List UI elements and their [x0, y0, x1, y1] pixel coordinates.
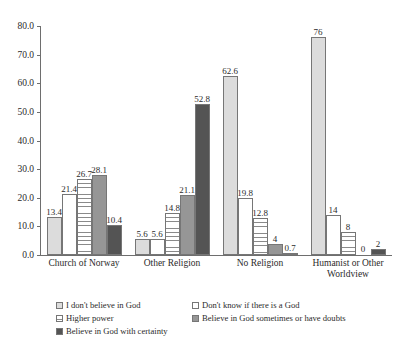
bar-slot: 26.7 [77, 26, 92, 255]
bar-slot: 14 [326, 26, 341, 255]
bar-groups: 13.421.426.728.110.45.65.614.821.152.862… [40, 26, 392, 255]
legend-row: Believe in God with certainty [56, 326, 376, 336]
legend-label: Higher power [66, 313, 114, 323]
bar[interactable]: 0.7 [283, 253, 298, 255]
y-axis-tick-label: 0.0 [0, 250, 34, 260]
bar[interactable]: 8 [341, 232, 356, 255]
bar-slot: 76 [311, 26, 326, 255]
x-axis-line [40, 255, 392, 256]
bar[interactable]: 12.8 [253, 218, 268, 255]
y-axis-tick-label: 10.0 [0, 221, 34, 231]
bar[interactable]: 13.4 [47, 217, 62, 255]
legend-label: Believe in God with certainty [66, 326, 168, 336]
bar-slot: 0.7 [283, 26, 298, 255]
legend-item[interactable]: I don't believe in God [56, 300, 192, 310]
bar-value-label: 12.8 [252, 209, 268, 218]
x-axis-category-line: Worldview [304, 269, 392, 280]
bar[interactable]: 62.6 [223, 76, 238, 255]
legend-row: Higher powerBelieve in God sometimes or … [56, 313, 376, 323]
y-axis-tick-label: 80.0 [0, 21, 34, 31]
bar[interactable]: 21.4 [62, 194, 77, 255]
bar-slot: 2 [371, 26, 386, 255]
bar-group: 7614802 [304, 26, 392, 255]
bar-value-label: 10.4 [106, 216, 122, 225]
x-axis-category-line: No Religion [216, 258, 304, 269]
y-axis-tick-label: 20.0 [0, 193, 34, 203]
x-axis-category-label: Humanist or OtherWorldview [304, 258, 392, 280]
bar-slot: 21.4 [62, 26, 77, 255]
bar-value-label: 62.6 [222, 67, 238, 76]
bar-value-label: 14 [329, 206, 338, 215]
bar-slot: 5.6 [135, 26, 150, 255]
bar-value-label: 0 [361, 245, 366, 254]
bar-slot: 62.6 [223, 26, 238, 255]
bar[interactable]: 14 [326, 215, 341, 255]
bar-value-label: 21.4 [61, 185, 77, 194]
bar[interactable]: 19.8 [238, 198, 253, 255]
bar-value-label: 21.1 [179, 186, 195, 195]
y-axis-tick-label: 40.0 [0, 136, 34, 146]
bar-slot: 8 [341, 26, 356, 255]
bar-value-label: 5.6 [136, 230, 147, 239]
bar-slot: 4 [268, 26, 283, 255]
bar-value-label: 2 [376, 240, 381, 249]
bar-group: 5.65.614.821.152.8 [128, 26, 216, 255]
y-axis-tick-label: 60.0 [0, 78, 34, 88]
legend-swatch [56, 328, 63, 335]
bar[interactable]: 14.8 [165, 213, 180, 255]
x-axis-category-line: Humanist or Other [304, 258, 392, 269]
bar-value-label: 8 [346, 223, 351, 232]
bar-slot: 10.4 [107, 26, 122, 255]
legend-item[interactable]: Believe in God sometimes or have doubts [192, 313, 346, 323]
bar-value-label: 4 [273, 235, 278, 244]
bar-value-label: 28.1 [91, 166, 107, 175]
legend-swatch [192, 302, 199, 309]
bar-slot: 52.8 [195, 26, 210, 255]
y-axis-ticks: 0.010.020.030.040.050.060.070.080.0 [0, 0, 40, 361]
x-axis-category-line: Other Religion [128, 258, 216, 269]
legend-swatch [56, 302, 63, 309]
bar[interactable]: 76 [311, 37, 326, 255]
bar-slot: 21.1 [180, 26, 195, 255]
bar-slot: 14.8 [165, 26, 180, 255]
bar-slot: 5.6 [150, 26, 165, 255]
chart-legend: I don't believe in GodDon't know if ther… [56, 300, 376, 339]
bar[interactable]: 28.1 [92, 175, 107, 255]
bar[interactable]: 21.1 [180, 195, 195, 255]
bar[interactable]: 2 [371, 249, 386, 255]
bar-value-label: 19.8 [237, 189, 253, 198]
bar[interactable]: 5.6 [135, 239, 150, 255]
bar-value-label: 14.8 [164, 204, 180, 213]
bar[interactable]: 4 [268, 244, 283, 255]
y-axis-tick-label: 50.0 [0, 107, 34, 117]
bar[interactable]: 52.8 [195, 104, 210, 255]
legend-label: I don't believe in God [66, 300, 141, 310]
legend-label: Believe in God sometimes or have doubts [202, 313, 346, 323]
legend-item[interactable]: Don't know if there is a God [192, 300, 300, 310]
bar[interactable]: 10.4 [107, 225, 122, 255]
bar-slot: 12.8 [253, 26, 268, 255]
y-axis-tick-label: 70.0 [0, 50, 34, 60]
bar[interactable]: 26.7 [77, 179, 92, 255]
bar-value-label: 13.4 [46, 208, 62, 217]
x-axis-labels: Church of NorwayOther ReligionNo Religio… [40, 258, 392, 280]
legend-item[interactable]: Believe in God with certainty [56, 326, 192, 336]
x-axis-category-label: No Religion [216, 258, 304, 280]
legend-swatch [56, 315, 63, 322]
legend-label: Don't know if there is a God [202, 300, 300, 310]
x-axis-category-line: Church of Norway [40, 258, 128, 269]
bar-slot: 13.4 [47, 26, 62, 255]
legend-swatch [192, 315, 199, 322]
bar-value-label: 0.7 [284, 244, 295, 253]
bar-group: 13.421.426.728.110.4 [40, 26, 128, 255]
bar-value-label: 26.7 [76, 170, 92, 179]
bar-slot: 19.8 [238, 26, 253, 255]
legend-item[interactable]: Higher power [56, 313, 192, 323]
bar-value-label: 52.8 [194, 95, 210, 104]
x-axis-category-label: Other Religion [128, 258, 216, 280]
bar-slot: 28.1 [92, 26, 107, 255]
legend-row: I don't believe in GodDon't know if ther… [56, 300, 376, 310]
bar[interactable]: 5.6 [150, 239, 165, 255]
bar-slot: 0 [356, 26, 371, 255]
bar-value-label: 76 [314, 28, 323, 37]
